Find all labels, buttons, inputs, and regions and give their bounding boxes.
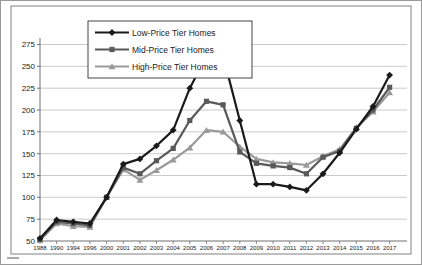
x-tick-label: 2006 [200,245,214,251]
x-tick-label: 2013 [316,245,330,251]
square-marker [304,171,309,176]
square-marker [254,161,259,166]
x-tick-label: 2003 [150,245,164,251]
x-tick-label: 2002 [133,245,147,251]
y-tick-label: 250 [22,62,36,71]
legend: Low-Price Tier HomesMid-Price Tier Homes… [88,21,252,78]
legend-label: Low-Price Tier Homes [132,28,216,38]
x-tick-label: 1990 [50,245,64,251]
y-tick-label: 200 [22,106,36,115]
legend-label: High-Price Tier Homes [132,62,218,72]
x-tick-label: 2012 [300,245,314,251]
square-marker [171,146,176,151]
x-tick-label: 2015 [350,245,364,251]
x-tick-label: 2000 [100,245,114,251]
square-marker [271,163,276,168]
square-marker [387,85,392,90]
legend-label: Mid-Price Tier Homes [132,45,214,55]
y-tick-label: 100 [22,193,36,202]
x-tick-label: 2007 [216,245,230,251]
line-chart-canvas: 5075100125150175200225250275 19881990199… [1,1,421,264]
home-price-tier-figure: 5075100125150175200225250275 19881990199… [0,0,422,265]
square-marker [154,158,159,163]
x-tick-label: 1994 [67,245,81,251]
square-marker [287,165,292,170]
x-tick-label: 2014 [333,245,347,251]
x-tick-label: 2011 [283,245,297,251]
y-tick-label: 175 [22,128,36,137]
x-tick-label: 1988 [33,245,47,251]
square-marker [187,118,192,123]
y-tick-label: 75 [26,215,35,224]
x-tick-label: 1996 [83,245,97,251]
x-tick-label: 2016 [366,245,380,251]
y-tick-label: 225 [22,84,36,93]
x-tick-label: 2004 [167,245,181,251]
square-marker [320,155,325,160]
square-marker [237,149,242,154]
y-tick-label: 125 [22,171,36,180]
y-tick-label: 150 [22,150,36,159]
x-tick-label: 2010 [266,245,280,251]
square-marker [109,47,114,52]
x-tick-label: 2005 [183,245,197,251]
x-tick-label: 2001 [117,245,131,251]
y-tick-label: 275 [22,40,36,49]
square-marker [204,99,209,104]
x-tick-label: 2017 [383,245,397,251]
x-tick-label: 2009 [250,245,264,251]
square-marker [221,102,226,107]
square-marker [137,171,142,176]
x-tick-label: 2008 [233,245,247,251]
